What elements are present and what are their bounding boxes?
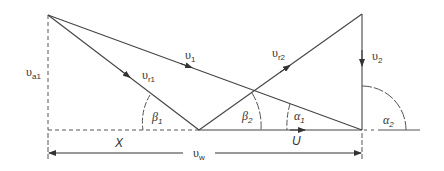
alpha1-arc bbox=[287, 104, 290, 130]
beta2-arc bbox=[252, 93, 261, 130]
beta1-arc bbox=[142, 95, 150, 130]
label-v1: υ1 bbox=[185, 48, 196, 64]
label-u: U bbox=[292, 134, 301, 148]
label-alpha1: α1 bbox=[294, 109, 305, 125]
v1-line bbox=[48, 15, 362, 130]
label-beta1: β1 bbox=[151, 110, 162, 126]
vr2-arrow bbox=[280, 65, 290, 72]
velocity-triangle-diagram: υa1 υ1 υr1 υr2 υ2 β1 β2 α1 α2 X U υw bbox=[0, 0, 444, 171]
label-alpha2: α2 bbox=[383, 113, 394, 129]
label-v2: υ2 bbox=[372, 49, 383, 65]
label-vr2: υr2 bbox=[272, 46, 286, 62]
label-x: X bbox=[114, 136, 124, 150]
label-vr1: υr1 bbox=[142, 68, 156, 84]
label-beta2: β2 bbox=[241, 109, 253, 125]
vr1-arrow bbox=[120, 70, 130, 78]
label-va1: υa1 bbox=[26, 65, 41, 81]
label-vw: υw bbox=[193, 146, 205, 162]
